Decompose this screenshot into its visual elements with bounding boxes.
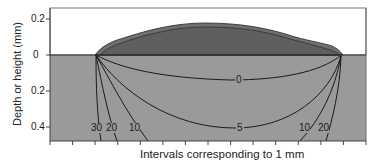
contour-label-30-left: 30 xyxy=(91,123,102,133)
y-axis-title: Depth or height (mm) xyxy=(11,9,23,139)
y-tick-label-depth-0.2: 0.2 xyxy=(31,86,45,96)
x-ticks xyxy=(50,141,366,145)
contour-label-20-right: 20 xyxy=(318,123,329,133)
contour-label-10-left: 10 xyxy=(129,123,140,133)
contour-label-5: 5 xyxy=(236,123,244,133)
y-ticks xyxy=(46,19,50,127)
y-tick-label-0: 0 xyxy=(33,50,39,60)
y-tick-label-depth-0.4: 0.4 xyxy=(31,122,45,132)
contour-label-0: 0 xyxy=(235,75,243,85)
weld-bead-contour-diagram: 0.2 0 0.2 0.4 Depth or height (mm) Inter… xyxy=(0,0,381,168)
y-tick-label-height-0.2: 0.2 xyxy=(31,14,45,24)
contour-label-10-right: 10 xyxy=(299,123,310,133)
contour-label-20-left: 20 xyxy=(106,123,117,133)
diagram-canvas xyxy=(0,0,381,168)
x-axis-title: Intervals corresponding to 1 mm xyxy=(140,148,304,160)
